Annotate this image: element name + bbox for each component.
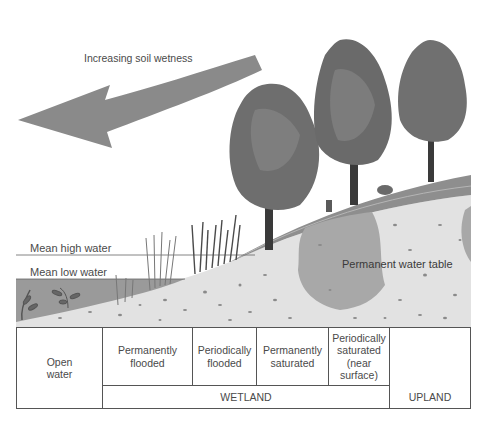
zone-permanently-flooded: Permanently flooded bbox=[102, 327, 193, 386]
shrub bbox=[377, 185, 393, 195]
zone-permanently-saturated: Permanently saturated bbox=[256, 327, 329, 386]
tree-3 bbox=[398, 40, 467, 182]
mean-low-water-label: Mean low water bbox=[30, 266, 107, 278]
tree-2 bbox=[314, 39, 392, 205]
tree-stump bbox=[326, 200, 332, 212]
soil-wetness-arrow bbox=[18, 55, 262, 148]
upland-label: UPLAND bbox=[409, 391, 452, 404]
water-table-label: Permanent water table bbox=[342, 258, 453, 270]
zone-open-water: Open water bbox=[16, 327, 103, 409]
mean-high-water-label: Mean high water bbox=[30, 242, 111, 254]
wetland-group: WETLAND bbox=[102, 385, 390, 409]
zone-table: Open water Permanently flooded Periodica… bbox=[16, 327, 471, 409]
zone-periodically-flooded: Periodically flooded bbox=[192, 327, 257, 386]
zone-periodically-saturated: Periodically saturated (near surface) bbox=[328, 327, 390, 386]
upland-group: UPLAND bbox=[389, 327, 471, 409]
soil-wetness-label: Increasing soil wetness bbox=[84, 52, 193, 64]
